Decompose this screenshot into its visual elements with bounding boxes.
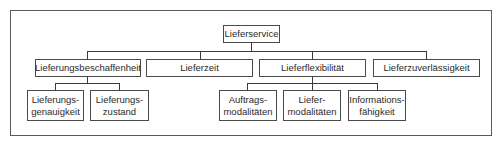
node-lieferzeit: Lieferzeit <box>146 59 253 77</box>
connector-to-liefermodalitaeten <box>312 83 313 90</box>
connector-root-down <box>251 43 252 51</box>
node-label: Lieferungsbeschaffenheit <box>35 62 141 74</box>
connector-level2-bus <box>87 51 427 52</box>
node-lieferflexibilitaet: Lieferflexibilität <box>259 59 366 77</box>
node-informationsfaehigkeit: Informations- fähigkeit <box>348 90 406 121</box>
node-label: Lieferflexibilität <box>281 62 344 74</box>
node-label-line1: Lieferungs- <box>31 94 80 106</box>
connector-to-auftragsmodalitaeten <box>247 83 248 90</box>
connector-to-informationsfaehigkeit <box>377 83 378 90</box>
node-label: Lieferzuverlässigkeit <box>383 62 469 74</box>
node-label-line1: Auftrags- <box>223 94 272 106</box>
node-lieferungsbeschaffenheit: Lieferungsbeschaffenheit <box>35 59 141 77</box>
node-label-line2: modalitäten <box>287 106 336 118</box>
node-label: Lieferservice <box>225 28 279 40</box>
connector-to-genauigkeit <box>55 83 56 90</box>
node-lieferzuverlaessigkeit: Lieferzuverlässigkeit <box>373 59 480 77</box>
node-lieferungszustand: Lieferungs- zustand <box>90 90 149 121</box>
node-label-line1: Informations- <box>349 94 404 106</box>
connector-to-lieferzeit <box>200 51 201 59</box>
node-liefermodalitaeten: Liefer- modalitäten <box>283 90 341 121</box>
node-label: Lieferzeit <box>180 62 219 74</box>
node-label-line2: zustand <box>96 106 144 118</box>
node-label-line2: genauigkeit <box>31 106 80 118</box>
node-label-line2: fähigkeit <box>349 106 404 118</box>
connector-beschaffenheit-bus <box>55 83 120 84</box>
connector-to-lieferzuverlaessigkeit <box>426 51 427 59</box>
node-auftragsmodalitaeten: Auftrags- modalitäten <box>219 90 277 121</box>
node-lieferungsgenauigkeit: Lieferungs- genauigkeit <box>27 90 84 121</box>
connector-to-zustand <box>119 83 120 90</box>
connector-to-lieferungsbeschaffenheit <box>87 51 88 59</box>
node-label-line1: Lieferungs- <box>96 94 144 106</box>
node-lieferservice: Lieferservice <box>223 25 280 43</box>
node-label-line2: modalitäten <box>223 106 272 118</box>
connector-to-lieferflexibilitaet <box>312 51 313 59</box>
node-label-line1: Liefer- <box>287 94 336 106</box>
